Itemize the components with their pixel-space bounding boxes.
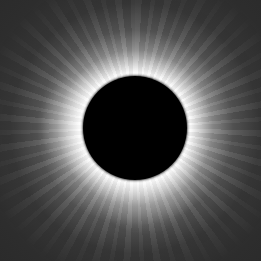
moon-disk xyxy=(83,76,187,180)
eclipse-photo xyxy=(0,0,261,261)
